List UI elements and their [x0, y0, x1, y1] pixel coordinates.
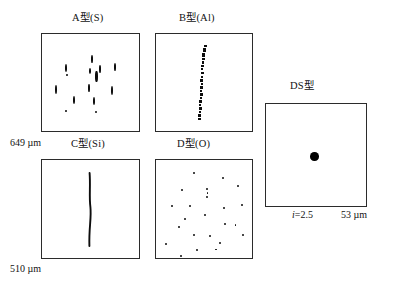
inclusion-mark: [202, 58, 205, 60]
inclusion-mark: [201, 72, 204, 75]
scale-label-ds-width: 53 µm: [341, 209, 367, 220]
scale-label-height-510: 510 µm: [10, 263, 41, 274]
inclusion-mark: [198, 114, 201, 117]
panel-a-box: [41, 33, 140, 132]
inclusion-mark: [223, 207, 225, 209]
panel-title-b: B型(Al): [179, 12, 215, 24]
inclusion-mark: [65, 110, 67, 112]
inclusion-mark: [88, 84, 90, 92]
inclusion-mark: [193, 172, 195, 174]
inclusion-mark: [202, 61, 204, 64]
scale-label-ds-index: i=2.5: [292, 209, 313, 220]
inclusion-mark: [66, 74, 68, 76]
inclusion-mark: [199, 100, 202, 103]
inclusion-mark: [201, 68, 203, 70]
inclusion-mark: [206, 188, 208, 190]
inclusion-mark: [95, 111, 97, 113]
inclusion-mark: [200, 97, 203, 99]
inclusion-mark: [207, 192, 209, 194]
inclusion-mark: [200, 93, 203, 96]
inclusion-mark: [89, 68, 91, 74]
inclusion-mark: [91, 55, 93, 63]
inclusion-mark: [224, 223, 226, 225]
inclusion-mark: [199, 104, 201, 106]
inclusion-mark: [65, 64, 67, 73]
inclusion-mark: [222, 177, 224, 179]
panel-b-box: [155, 33, 253, 132]
inclusion-mark: [99, 65, 101, 73]
panel-title-a: A型(S): [72, 12, 103, 24]
inclusion-mark: [242, 234, 244, 236]
inclusion-mark: [237, 185, 239, 187]
inclusion-mark: [199, 107, 202, 110]
inclusion-mark: [55, 85, 57, 95]
inclusion-mark: [206, 196, 208, 198]
figure-caption: [30, 278, 380, 286]
inclusion-mark: [198, 118, 201, 120]
inclusion-mark: [200, 90, 202, 92]
inclusion-mark: [215, 249, 217, 251]
panel-title-ds: DS型: [290, 80, 314, 92]
inclusion-mark: [111, 86, 113, 95]
inclusion-mark: [201, 83, 203, 85]
inclusion-mark: [189, 205, 191, 207]
panel-ds-box: [265, 103, 367, 207]
inclusion-mark: [181, 189, 183, 191]
panel-title-d: D型(O): [177, 138, 210, 150]
inclusion-mark: [114, 63, 116, 71]
inclusion-mark: [73, 96, 75, 105]
inclusion-mark: [235, 224, 237, 226]
panel-title-c: C型(Si): [71, 138, 105, 150]
inclusion-mark: [165, 243, 167, 245]
panel-d-box: [155, 159, 253, 259]
inclusion-mark: [209, 235, 211, 237]
scale-label-height-649: 649 µm: [10, 137, 41, 148]
inclusion-mark: [171, 205, 173, 207]
inclusion-mark: [199, 111, 202, 113]
inclusion-mark: [219, 242, 221, 244]
inclusion-mark: [201, 65, 204, 67]
inclusion-mark: [180, 255, 182, 257]
panel-c-box: [41, 159, 140, 259]
inclusion-type-figure: A型(S) B型(Al): [0, 0, 399, 288]
inclusion-mark: [241, 204, 243, 206]
ds-index-value: =2.5: [295, 209, 313, 220]
inclusion-mark: [201, 76, 203, 78]
inclusion-mark: [200, 79, 203, 82]
inclusion-mark: [95, 71, 98, 82]
inclusion-mark: [93, 97, 95, 106]
inclusion-streak-line: [42, 160, 139, 258]
inclusion-mark: [193, 234, 195, 236]
inclusion-mark: [196, 249, 198, 251]
ds-globule-mark: [310, 152, 319, 161]
inclusion-mark: [184, 218, 186, 220]
inclusion-mark: [200, 86, 203, 89]
inclusion-mark: [178, 226, 180, 228]
inclusion-mark: [204, 214, 206, 216]
